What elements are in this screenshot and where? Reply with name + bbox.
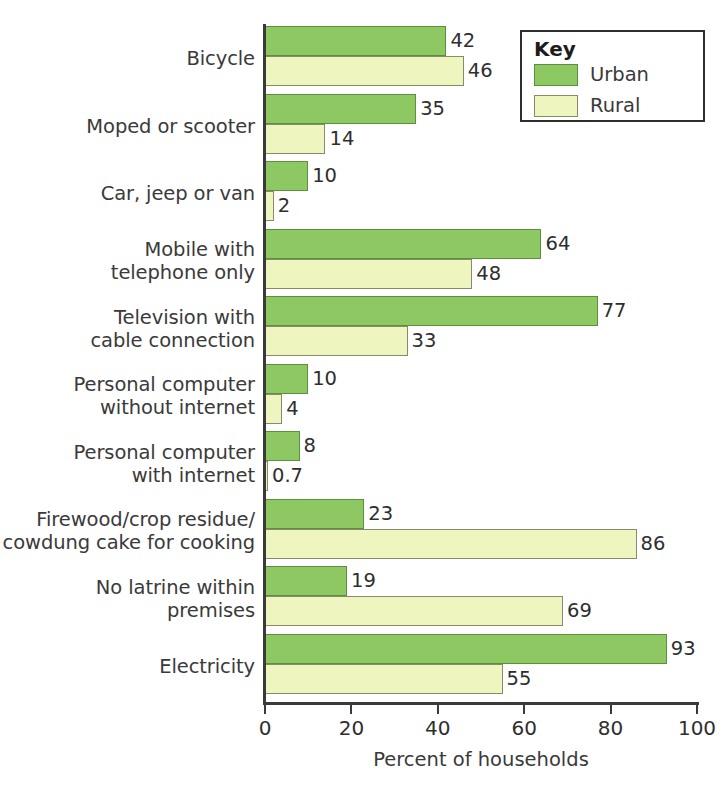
category-label-line: Mobile with — [0, 238, 255, 261]
legend-title: Key — [534, 37, 576, 61]
bar-rural-9 — [265, 664, 503, 694]
category-label-4: Television withcable connection — [0, 306, 255, 352]
category-label-line: cowdung cake for cooking — [0, 531, 255, 554]
bar-value-label: 10 — [312, 166, 337, 185]
y-axis-line — [263, 24, 266, 704]
category-label-line: cable connection — [0, 329, 255, 352]
category-label-line: Firewood/crop residue/ — [0, 508, 255, 531]
bar-value-label: 93 — [671, 639, 696, 658]
category-label-line: telephone only — [0, 261, 255, 284]
x-tick-label: 60 — [511, 716, 536, 740]
x-tick — [437, 705, 439, 714]
category-label-line: Personal computer — [0, 373, 255, 396]
x-tick-label: 0 — [259, 716, 272, 740]
bar-value-label: 10 — [312, 369, 337, 388]
x-tick — [264, 705, 266, 714]
legend: Key UrbanRural — [520, 30, 705, 122]
bar-urban-6 — [265, 431, 300, 461]
category-label-line: Personal computer — [0, 441, 255, 464]
legend-swatch-rural — [534, 95, 578, 117]
bar-rural-7 — [265, 529, 637, 559]
bar-rural-5 — [265, 394, 282, 424]
legend-swatch-urban — [534, 64, 578, 86]
bar-value-label: 55 — [507, 669, 532, 688]
category-label-2: Car, jeep or van — [0, 182, 255, 205]
bar-urban-7 — [265, 499, 364, 529]
category-label-line: Bicycle — [0, 47, 255, 70]
category-label-1: Moped or scooter — [0, 115, 255, 138]
x-tick-label: 100 — [678, 716, 716, 740]
category-label-8: No latrine withinpremises — [0, 576, 255, 622]
category-label-5: Personal computerwithout internet — [0, 373, 255, 419]
bar-urban-0 — [265, 26, 446, 56]
x-tick — [610, 705, 612, 714]
bar-rural-2 — [265, 191, 274, 221]
bar-value-label: 14 — [329, 129, 354, 148]
x-tick-label: 20 — [339, 716, 364, 740]
category-label-line: No latrine within — [0, 576, 255, 599]
x-tick — [523, 705, 525, 714]
category-label-line: with internet — [0, 464, 255, 487]
category-label-line: Moped or scooter — [0, 115, 255, 138]
bar-rural-8 — [265, 596, 563, 626]
bar-urban-3 — [265, 229, 541, 259]
bar-value-label: 42 — [450, 31, 475, 50]
category-label-line: Car, jeep or van — [0, 182, 255, 205]
bar-value-label: 35 — [420, 99, 445, 118]
legend-label: Rural — [590, 93, 640, 119]
bar-chart: BicycleMoped or scooterCar, jeep or vanM… — [0, 0, 728, 795]
bar-urban-2 — [265, 161, 308, 191]
bar-rural-3 — [265, 259, 472, 289]
bar-value-label: 46 — [468, 61, 493, 80]
x-tick-label: 40 — [425, 716, 450, 740]
category-label-6: Personal computerwith internet — [0, 441, 255, 487]
category-label-line: Television with — [0, 306, 255, 329]
x-axis-line — [263, 702, 699, 705]
x-tick — [350, 705, 352, 714]
category-label-line: Electricity — [0, 655, 255, 678]
bar-urban-9 — [265, 634, 667, 664]
bar-value-label: 86 — [641, 534, 666, 553]
bar-value-label: 23 — [368, 504, 393, 523]
legend-label: Urban — [590, 62, 649, 88]
category-label-line: without internet — [0, 396, 255, 419]
bar-value-label: 77 — [602, 301, 627, 320]
bar-value-label: 2 — [278, 196, 290, 215]
category-label-9: Electricity — [0, 655, 255, 678]
bar-urban-4 — [265, 296, 598, 326]
x-tick — [696, 705, 698, 714]
bar-value-label: 0.7 — [272, 466, 303, 485]
x-tick-label: 80 — [598, 716, 623, 740]
bar-urban-1 — [265, 94, 416, 124]
bar-urban-5 — [265, 364, 308, 394]
bar-value-label: 48 — [476, 264, 501, 283]
bar-urban-8 — [265, 566, 347, 596]
bar-value-label: 69 — [567, 601, 592, 620]
category-label-3: Mobile withtelephone only — [0, 238, 255, 284]
bar-value-label: 33 — [412, 331, 437, 350]
bar-value-label: 64 — [545, 234, 570, 253]
bar-value-label: 4 — [286, 399, 298, 418]
x-axis-title: Percent of households — [263, 748, 699, 771]
category-label-7: Firewood/crop residue/cowdung cake for c… — [0, 508, 255, 554]
bar-value-label: 19 — [351, 571, 376, 590]
bar-rural-0 — [265, 56, 464, 86]
category-label-0: Bicycle — [0, 47, 255, 70]
bar-value-label: 8 — [304, 436, 316, 455]
bar-rural-4 — [265, 326, 408, 356]
category-label-line: premises — [0, 599, 255, 622]
category-axis-labels: BicycleMoped or scooterCar, jeep or vanM… — [0, 26, 255, 702]
bar-rural-1 — [265, 124, 325, 154]
plot-area: 424635141026448773310480.7238619699355 — [265, 26, 697, 702]
